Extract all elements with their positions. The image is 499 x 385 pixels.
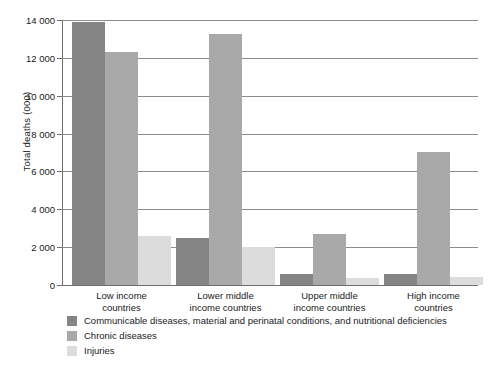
bar: [313, 234, 346, 285]
bar: [417, 152, 450, 285]
bar: [384, 274, 417, 285]
bar: [450, 277, 483, 285]
bar: [72, 22, 105, 285]
y-axis-tick-label: 8 000: [31, 128, 62, 139]
legend-label: Communicable diseases, material and peri…: [84, 315, 447, 326]
bar: [138, 236, 171, 285]
plot-area: 02 0004 0006 0008 00010 00012 00014 000: [62, 20, 478, 285]
bar: [346, 278, 379, 285]
y-axis-line: [62, 20, 63, 286]
chart-legend: Communicable diseases, material and peri…: [67, 313, 447, 358]
y-axis-tick-label: 6 000: [31, 166, 62, 177]
legend-label: Chronic diseases: [84, 330, 157, 341]
gridline: [62, 20, 478, 21]
bar: [280, 274, 313, 285]
y-axis-tick-label: 2 000: [31, 242, 62, 253]
legend-label: Injuries: [84, 345, 115, 356]
y-axis-tick-label: 14 000: [26, 15, 62, 26]
axis-baseline: [62, 285, 478, 286]
legend-swatch-icon: [67, 316, 77, 326]
legend-item[interactable]: Injuries: [67, 343, 447, 358]
bar: [242, 247, 275, 285]
y-axis-tick-label: 10 000: [26, 90, 62, 101]
bar: [209, 34, 242, 285]
bar: [105, 52, 138, 285]
legend-item[interactable]: Chronic diseases: [67, 328, 447, 343]
y-axis-tick-label: 0: [50, 280, 62, 291]
y-axis-tick-label: 12 000: [26, 52, 62, 63]
legend-swatch-icon: [67, 331, 77, 341]
category-label-line: High income: [372, 290, 495, 302]
y-axis-tick-label: 4 000: [31, 204, 62, 215]
bar-chart: Total deaths (000) 02 0004 0006 0008 000…: [0, 0, 499, 385]
category-label-line: countries: [372, 302, 495, 314]
legend-swatch-icon: [67, 346, 77, 356]
bar: [176, 238, 209, 285]
x-axis-category-label: High incomecountries: [372, 290, 495, 313]
y-axis-title: Total deaths (000): [21, 42, 32, 222]
legend-item[interactable]: Communicable diseases, material and peri…: [67, 313, 447, 328]
